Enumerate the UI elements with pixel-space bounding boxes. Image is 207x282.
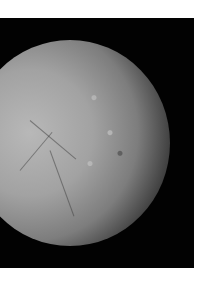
surface-fracture: [30, 120, 77, 159]
space-background: [0, 18, 194, 268]
moon-disc: [0, 40, 170, 246]
surface-fracture: [20, 132, 53, 171]
surface-fracture: [50, 150, 75, 216]
